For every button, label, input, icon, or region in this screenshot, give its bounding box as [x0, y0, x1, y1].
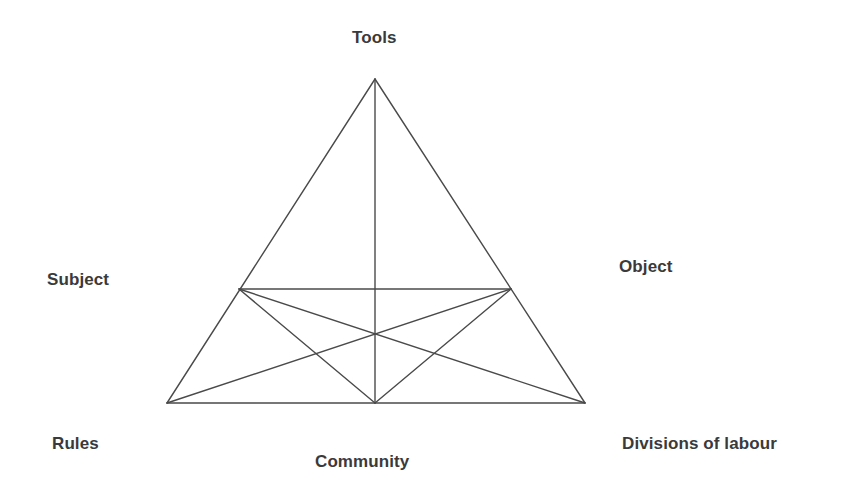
activity-triangle-graphic — [0, 0, 850, 493]
node-label-community: Community — [315, 451, 409, 472]
node-label-subject: Subject — [47, 269, 109, 290]
node-label-tools: Tools — [352, 27, 397, 48]
triangle-edges — [167, 79, 585, 403]
edge-tools-rules — [167, 79, 375, 403]
edge-object-community — [375, 289, 511, 403]
edge-subject-division — [239, 289, 585, 403]
node-label-rules: Rules — [52, 433, 99, 454]
node-label-divisions-of-labour: Divisions of labour — [622, 433, 777, 454]
diagram-canvas: Tools Subject Object Rules Community Div… — [0, 0, 850, 493]
node-label-object: Object — [619, 256, 673, 277]
edge-tools-division — [375, 79, 585, 403]
edge-object-rules — [167, 289, 511, 403]
edge-subject-community — [239, 289, 375, 403]
